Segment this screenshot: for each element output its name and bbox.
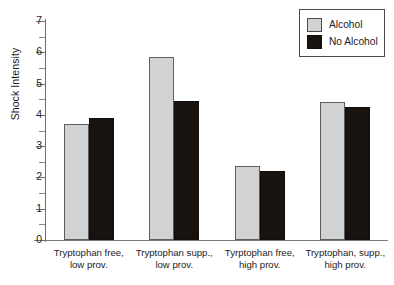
y-tick-minor [39, 224, 45, 225]
y-tick-minor [39, 162, 45, 163]
y-tick-minor [39, 68, 45, 69]
bar [320, 102, 345, 240]
bar [235, 166, 260, 240]
x-axis-label-line: low prov. [132, 259, 218, 271]
y-tick-label: 3 [20, 140, 42, 151]
legend-label-alcohol: Alcohol [329, 19, 362, 30]
y-tick-label: 5 [20, 78, 42, 89]
x-axis-line [34, 240, 388, 241]
bar [149, 57, 174, 240]
y-tick-minor [39, 99, 45, 100]
y-tick-label: 0 [20, 234, 42, 245]
x-axis-label-line: Tryptophan free, [46, 247, 132, 259]
y-tick-minor [39, 131, 45, 132]
bar [64, 124, 89, 240]
bar [345, 107, 370, 240]
y-tick-label: 7 [20, 15, 42, 26]
y-tick-label: 6 [20, 46, 42, 57]
x-axis-label-line: Tryptophan supp., [132, 247, 218, 259]
y-tick-label: 2 [20, 171, 42, 182]
x-axis-category-label: Tyrptophan free,high prov. [217, 247, 303, 272]
bar [174, 101, 199, 240]
x-axis-label-line: Tyrptophan free, [217, 247, 303, 259]
x-axis-label-line: high prov. [217, 259, 303, 271]
x-axis-label-line: Tryptophan, supp., [303, 247, 389, 259]
shock-intensity-bar-chart: Shock Intensity 01234567 Tryptophan free… [0, 0, 394, 285]
legend-label-no-alcohol: No Alcohol [329, 36, 378, 47]
legend: Alcohol No Alcohol [299, 9, 385, 57]
legend-item-alcohol: Alcohol [307, 16, 378, 33]
y-tick-minor [39, 193, 45, 194]
y-tick-label: 4 [20, 109, 42, 120]
bar [89, 118, 114, 240]
x-axis-category-label: Tryptophan, supp.,high prov. [303, 247, 389, 272]
y-tick-label: 1 [20, 203, 42, 214]
x-axis-category-label: Tryptophan free,low prov. [46, 247, 132, 272]
legend-swatch-no-alcohol [307, 35, 322, 49]
y-axis-line [45, 19, 46, 242]
bar [260, 171, 285, 240]
x-axis-label-line: low prov. [46, 259, 132, 271]
legend-swatch-alcohol [307, 18, 322, 32]
x-axis-category-label: Tryptophan supp.,low prov. [132, 247, 218, 272]
y-tick-minor [39, 37, 45, 38]
legend-item-no-alcohol: No Alcohol [307, 33, 378, 50]
x-axis-label-line: high prov. [303, 259, 389, 271]
